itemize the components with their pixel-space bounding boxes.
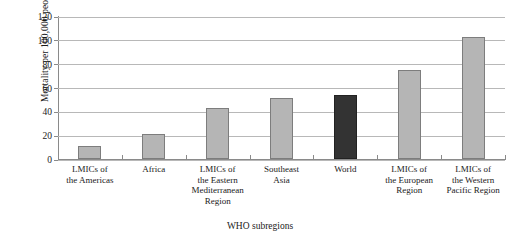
x-category-label-line: the Americas — [46, 175, 134, 186]
bar — [398, 70, 421, 159]
x-tick-mark — [122, 155, 123, 160]
x-tick-mark — [313, 155, 314, 160]
bar — [142, 134, 165, 159]
y-tick-label: 60 — [18, 83, 52, 95]
x-axis-title: WHO subregions — [0, 221, 520, 231]
gridline — [58, 17, 505, 18]
y-tick-mark — [54, 136, 58, 137]
plot-area — [58, 17, 505, 160]
x-tick-mark — [58, 155, 59, 160]
y-tick-label: 100 — [18, 35, 52, 47]
x-category-label: LMICs ofthe WesternPacific Region — [429, 164, 517, 196]
bar — [270, 98, 293, 159]
gridline — [58, 88, 505, 89]
y-tick-label: 120 — [18, 11, 52, 23]
x-category-label-line: Pacific Region — [429, 185, 517, 196]
y-tick-label: 20 — [18, 130, 52, 142]
x-tick-mark — [186, 155, 187, 160]
y-tick-mark — [54, 88, 58, 89]
gridline — [58, 160, 505, 161]
y-tick-label: 40 — [18, 106, 52, 118]
bar — [462, 37, 485, 159]
x-category-label-line: Asia — [238, 175, 326, 186]
gridline — [58, 64, 505, 65]
bar — [78, 146, 101, 159]
gridline — [58, 40, 505, 41]
x-tick-mark — [441, 155, 442, 160]
bar — [334, 95, 357, 159]
y-tick-label: 80 — [18, 59, 52, 71]
y-tick-mark — [54, 17, 58, 18]
x-category-label-line: LMICs of — [429, 164, 517, 175]
bar — [206, 108, 229, 159]
bar-chart-figure: Mortality per 100,000 people 02040608010… — [0, 0, 520, 241]
x-category-label-line: Mediterranean — [174, 185, 262, 196]
x-category-label-line: the Western — [429, 175, 517, 186]
y-tick-mark — [54, 64, 58, 65]
y-tick-mark — [54, 112, 58, 113]
y-tick-mark — [54, 40, 58, 41]
x-tick-mark — [377, 155, 378, 160]
x-tick-mark — [250, 155, 251, 160]
x-tick-mark — [505, 155, 506, 160]
x-category-label-line: Region — [174, 196, 262, 207]
